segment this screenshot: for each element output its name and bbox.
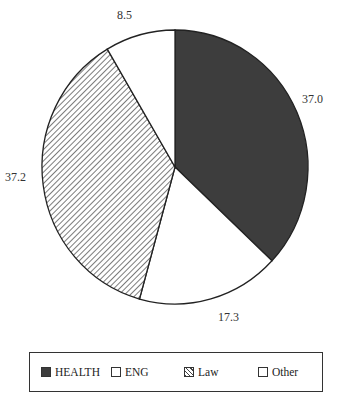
legend-item-health: HEALTH [41, 366, 100, 378]
legend-label: Other [272, 366, 298, 378]
chart-legend: HEALTH ENG Law Other [29, 352, 323, 392]
pie-chart [0, 0, 343, 345]
legend-label: HEALTH [55, 366, 100, 378]
legend-item-law: Law [184, 366, 218, 378]
slice-label-health: 37.0 [302, 92, 323, 107]
slice-label-law: 37.2 [5, 170, 26, 185]
eng-swatch-icon [111, 367, 121, 377]
slice-label-eng: 17.3 [218, 310, 239, 325]
other-swatch-icon [258, 367, 268, 377]
legend-item-other: Other [258, 366, 298, 378]
law-swatch-icon [184, 367, 194, 377]
slice-label-other: 8.5 [117, 8, 132, 23]
legend-label: Law [198, 366, 218, 378]
health-swatch-icon [41, 367, 51, 377]
legend-item-eng: ENG [111, 366, 149, 378]
legend-label: ENG [125, 366, 149, 378]
